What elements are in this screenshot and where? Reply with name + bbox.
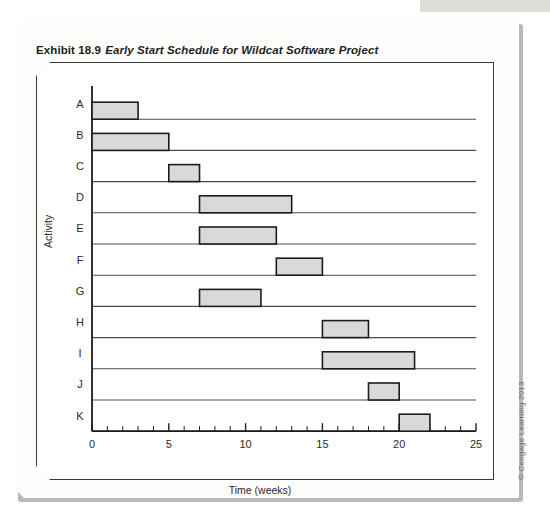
exhibit-label: Exhibit 18.9 xyxy=(36,44,101,56)
exhibit-caption: Exhibit 18.9Early Start Schedule for Wil… xyxy=(36,44,476,56)
plot-frame xyxy=(36,62,494,480)
page-top-edge xyxy=(420,0,550,12)
y-axis-title: Activity xyxy=(42,215,54,248)
copyright-notice: © Cengage Learning 2013 xyxy=(517,381,526,480)
x-axis-title: Time (weeks) xyxy=(0,484,520,496)
figure-page: Exhibit 18.9Early Start Schedule for Wil… xyxy=(0,0,550,529)
exhibit-title: Early Start Schedule for Wildcat Softwar… xyxy=(105,44,378,56)
